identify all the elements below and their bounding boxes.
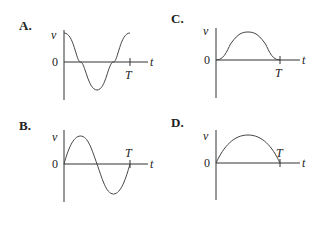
- panel-label: C.: [171, 11, 184, 26]
- panel-label: A.: [19, 18, 32, 33]
- period-label: T: [125, 68, 133, 82]
- period-label: T: [125, 146, 133, 160]
- y-axis-label: v: [52, 130, 58, 144]
- origin-label: 0: [52, 157, 58, 171]
- x-axis-label: t: [302, 156, 306, 170]
- panel-a: A. v 0 T t: [19, 18, 154, 100]
- origin-label: 0: [204, 156, 210, 170]
- panel-label: D.: [171, 115, 184, 130]
- panel-label: B.: [19, 118, 31, 133]
- y-axis-label: v: [51, 28, 57, 42]
- x-axis-label: t: [150, 157, 154, 171]
- graph-options-figure: A. v 0 T t C. v 0 T t B. v 0 T t D. v 0: [0, 0, 321, 247]
- bump-curve: [216, 32, 280, 60]
- sine-curve: [64, 136, 130, 194]
- panel-c: C. v 0 T t: [171, 11, 306, 98]
- y-axis-label: v: [203, 24, 209, 38]
- y-axis-label: v: [203, 129, 209, 143]
- half-sine-curve: [216, 135, 280, 163]
- origin-label: 0: [204, 53, 210, 67]
- period-label: T: [275, 66, 283, 80]
- origin-label: 0: [52, 55, 58, 69]
- panel-d: D. v 0 T t: [171, 115, 306, 200]
- panel-b: B. v 0 T t: [19, 118, 154, 202]
- x-axis-label: t: [150, 55, 154, 69]
- x-axis-label: t: [302, 53, 306, 67]
